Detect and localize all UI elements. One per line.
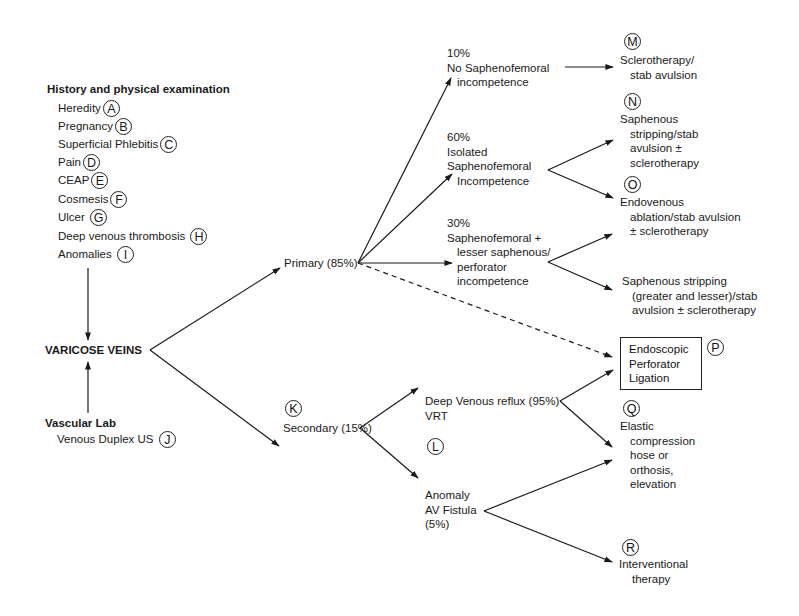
history-item-label: Cosmesis — [58, 193, 108, 205]
history-title: History and physical examination — [47, 82, 230, 97]
arrow-deep-to-Q — [560, 401, 612, 447]
treatment-line: avulsion ± sclerotherapy — [622, 303, 757, 318]
history-item-label: Ulcer — [58, 211, 85, 223]
vascular-lab-item: Venous Duplex US J — [57, 431, 176, 448]
history-item-label: Deep venous thrombosis — [58, 230, 185, 242]
marker-O: O — [624, 176, 641, 193]
treatment-line: sclerotherapy — [620, 156, 699, 171]
treatment-P-box: Endoscopic Perforator Ligation — [620, 337, 702, 390]
branch-line: Saphenofemoral — [447, 159, 531, 174]
marker-F: F — [110, 191, 127, 208]
branch-pct: 10% — [447, 46, 549, 61]
treatment-M: Sclerotherapy/ stab avulsion — [620, 53, 697, 82]
treatment-line: stab avulsion — [620, 68, 697, 83]
history-item-label: Pregnancy — [58, 120, 113, 132]
primary-label: Primary (85%) — [284, 256, 357, 271]
branch-line: Isolated — [447, 145, 531, 160]
vascular-lab-item-label: Venous Duplex US — [57, 433, 154, 445]
marker-L: L — [427, 438, 444, 455]
treatment-line: compression — [620, 434, 695, 449]
branch-line: incompetence — [447, 75, 549, 90]
branch-line: Saphenofemoral + — [447, 231, 550, 246]
treatment-line: therapy — [619, 572, 688, 587]
history-item-label: Anomalies — [58, 248, 112, 260]
branch-pct: 30% — [447, 216, 550, 231]
arrow-anomaly-to-R — [484, 511, 612, 562]
treatment-saphenous-stripping: Saphenous stripping (greater and lesser)… — [622, 274, 757, 318]
marker-A: A — [103, 100, 120, 117]
arrow-30-to-O — [548, 234, 612, 262]
treatment-line: Elastic — [620, 419, 695, 434]
marker-P: P — [707, 339, 724, 356]
history-item-label: Superficial Phlebitis — [58, 138, 158, 150]
marker-D: D — [83, 154, 100, 171]
history-item-label: Pain — [58, 156, 81, 168]
arrow-to-N — [548, 140, 613, 170]
treatment-line: Sclerotherapy/ — [620, 53, 697, 68]
branch-deep-venous-reflux: Deep Venous reflux (95%) VRT L — [425, 394, 559, 455]
history-item-pregnancy: PregnancyB — [58, 118, 132, 135]
treatment-line: Saphenous — [620, 112, 699, 127]
marker-H: H — [190, 228, 207, 245]
history-item-ulcer: Ulcer G — [58, 209, 107, 226]
arrow-30-to-stripping — [548, 262, 612, 290]
treatment-line: Perforator — [629, 357, 693, 372]
branch-line: perforator — [447, 260, 550, 275]
arrow-anomaly-to-Q — [484, 460, 612, 511]
arrow-to-60pct — [358, 174, 452, 263]
treatment-line: hose or — [620, 448, 695, 463]
secondary-label: Secondary (15%) — [283, 421, 372, 436]
history-item-superficial-phlebitis: Superficial PhlebitisC — [58, 136, 177, 153]
branch-30pct: 30% Saphenofemoral + lesser saphenous/ p… — [447, 216, 550, 289]
arrow-deep-to-ligation — [560, 370, 613, 401]
branch-line: Anomaly — [425, 488, 477, 503]
treatment-line: ± sclerotherapy — [620, 224, 741, 239]
vascular-lab-title: Vascular Lab — [45, 416, 116, 431]
treatment-line: Ligation — [629, 371, 693, 386]
varicose-veins-label: VARICOSE VEINS — [45, 343, 142, 358]
marker-G: G — [90, 209, 107, 226]
marker-C: C — [160, 136, 177, 153]
branch-10pct: 10% No Saphenofemoral incompetence — [447, 46, 549, 90]
marker-K: K — [285, 400, 302, 417]
treatment-line: elevation — [620, 477, 695, 492]
branch-line: lesser saphenous/ — [447, 245, 550, 260]
treatment-line: Interventional — [619, 557, 688, 572]
marker-I: I — [117, 246, 134, 263]
branch-line: No Saphenofemoral — [447, 61, 549, 76]
branch-line: (5%) — [425, 517, 477, 532]
treatment-line: avulsion ± — [620, 141, 699, 156]
treatment-line: Endovenous — [620, 195, 741, 210]
history-item-cosmesis: CosmesisF — [58, 191, 127, 208]
treatment-line: ablation/stab avulsion — [620, 210, 741, 225]
treatment-line: Endoscopic — [629, 342, 693, 357]
treatment-N: Saphenous stripping/stab avulsion ± scle… — [620, 112, 699, 170]
branch-line: Incompetence — [447, 174, 531, 189]
marker-E: E — [91, 172, 108, 189]
treatment-line: (greater and lesser)/stab — [622, 289, 757, 304]
history-item-pain: PainD — [58, 154, 100, 171]
history-item-label: CEAP — [58, 174, 89, 186]
arrow-to-10pct — [358, 78, 451, 263]
marker-B: B — [115, 118, 132, 135]
history-item-label: Heredity — [58, 102, 101, 114]
branch-anomaly: Anomaly AV Fistula (5%) — [425, 488, 477, 532]
marker-Q: Q — [623, 400, 640, 417]
history-item-dvt: Deep venous thrombosis H — [58, 228, 207, 245]
treatment-line: stripping/stab — [620, 127, 699, 142]
history-item-heredity: HeredityA — [58, 100, 120, 117]
treatment-R: Interventional therapy — [619, 557, 688, 586]
branch-line: AV Fistula — [425, 503, 477, 518]
marker-M: M — [624, 33, 641, 50]
branch-line: VRT — [425, 409, 559, 424]
treatment-O: Endovenous ablation/stab avulsion ± scle… — [620, 195, 741, 239]
arrow-to-anomaly — [360, 428, 418, 478]
marker-J: J — [159, 431, 176, 448]
history-item-anomalies: Anomalies I — [58, 246, 134, 263]
arrow-to-primary — [150, 268, 280, 350]
treatment-line: orthosis, — [620, 463, 695, 478]
history-item-ceap: CEAPE — [58, 172, 108, 189]
marker-N: N — [624, 93, 641, 110]
arrow-to-O — [548, 170, 613, 198]
branch-line: incompetence — [447, 274, 550, 289]
